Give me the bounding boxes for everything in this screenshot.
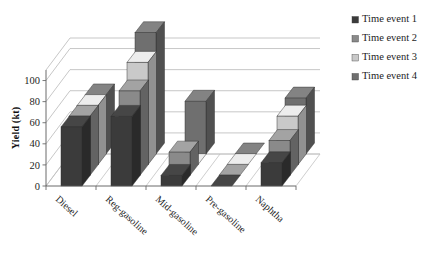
y-tick-label: 40 xyxy=(30,138,41,149)
bar-3-2 xyxy=(227,154,257,165)
x-category-label: Pre-gasoline xyxy=(204,193,249,235)
x-category-label: Mid-gasoline xyxy=(154,193,201,237)
square-swatch-icon xyxy=(352,17,359,24)
legend-item: Time event 1 xyxy=(352,13,417,24)
bar-3-1 xyxy=(219,164,249,175)
legend-item-label: Time event 1 xyxy=(362,13,417,24)
bar-4-0 xyxy=(261,152,291,186)
y-tick-label: 60 xyxy=(30,117,41,128)
square-swatch-icon xyxy=(352,55,359,62)
bar-3-0 xyxy=(211,175,241,186)
bar-2-0 xyxy=(161,164,191,186)
bar-1-0 xyxy=(111,105,141,186)
bar-series-group xyxy=(61,22,315,186)
y-tick-label: 100 xyxy=(24,75,40,86)
legend-item-label: Time event 4 xyxy=(362,70,418,81)
legend-item-label: Time event 2 xyxy=(362,32,417,43)
y-tick-label: 0 xyxy=(35,181,40,192)
legend-item: Time event 4 xyxy=(352,70,418,81)
x-category-label: Reg-gasoline xyxy=(104,193,151,237)
bar-3-3 xyxy=(235,143,265,154)
y-axis-tick-labels: 020406080100 xyxy=(24,75,40,191)
x-category-label: Naphtha xyxy=(254,193,287,224)
y-tick-label: 80 xyxy=(30,96,41,107)
bar-chart-3d: 020406080100 Yield (kt) DieselReg-gasoli… xyxy=(0,0,443,264)
square-swatch-icon xyxy=(352,36,359,43)
x-axis-category-labels: DieselReg-gasolineMid-gasolinePre-gasoli… xyxy=(54,193,287,237)
y-tick-label: 20 xyxy=(30,160,41,171)
legend-item-label: Time event 3 xyxy=(362,51,417,62)
chart-legend: Time event 1Time event 2Time event 3Time… xyxy=(352,13,418,81)
bar-0-0 xyxy=(61,116,91,186)
legend-item: Time event 2 xyxy=(352,32,417,43)
legend-item: Time event 3 xyxy=(352,51,417,62)
x-category-label: Diesel xyxy=(54,193,81,218)
chart-container: 020406080100 Yield (kt) DieselReg-gasoli… xyxy=(0,0,443,264)
square-swatch-icon xyxy=(352,74,359,81)
y-axis-title-text: Yield (kt) xyxy=(10,107,22,149)
y-axis-title: Yield (kt) xyxy=(10,107,22,149)
